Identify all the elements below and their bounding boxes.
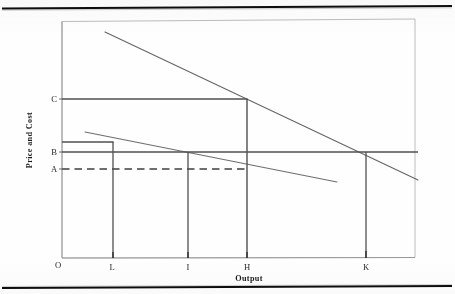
x-tick-label-L: L bbox=[109, 262, 114, 272]
x-axis-line bbox=[62, 258, 415, 259]
x-axis-title: Output bbox=[235, 274, 263, 283]
x-tick-label-H: H bbox=[244, 262, 250, 272]
figure-container: Price and Cost Output C B A O L I H K bbox=[0, 0, 455, 294]
x-tick-label-I: I bbox=[187, 262, 190, 272]
y-axis-title: Price and Cost bbox=[25, 112, 34, 168]
page-background bbox=[0, 0, 455, 294]
y-tick-label-A: A bbox=[51, 164, 58, 174]
y-tick-label-B: B bbox=[51, 147, 57, 157]
x-tick-label-O: O bbox=[55, 260, 61, 270]
price-cost-output-chart: Price and Cost Output C B A O L I H K bbox=[0, 0, 455, 294]
x-tick-label-K: K bbox=[363, 262, 370, 272]
y-tick-label-C: C bbox=[51, 94, 57, 104]
